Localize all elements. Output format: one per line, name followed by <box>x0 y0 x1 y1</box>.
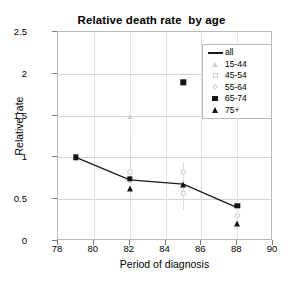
legend-label: 55-64 <box>225 82 247 94</box>
line-key-icon <box>205 47 225 59</box>
legend-item-all: all <box>205 47 269 59</box>
data-point-65-74 <box>127 176 132 181</box>
data-point-65-74 <box>73 155 78 160</box>
y-axis-label: Relative rate <box>13 66 25 186</box>
legend-label: 15-44 <box>225 59 247 71</box>
data-point-75-plus <box>180 182 186 188</box>
y-tick-label: 0.5 <box>0 193 27 204</box>
data-point-65-74 <box>234 203 239 208</box>
data-point-75-plus <box>127 186 133 192</box>
square-filled-icon <box>205 93 225 105</box>
data-point-65-74 <box>181 79 186 84</box>
data-point-15-44 <box>127 114 133 119</box>
data-point-55-64 <box>181 191 185 195</box>
y-tick-label: 2.5 <box>0 26 27 37</box>
legend-item-65-74: 65-74 <box>205 93 269 105</box>
square-open-icon <box>205 70 225 82</box>
legend-item-55-64: 55-64 <box>205 82 269 94</box>
x-axis-label: Period of diagnosis <box>57 258 272 270</box>
legend-item-45-54: 45-54 <box>205 70 269 82</box>
triangle-open-icon <box>205 59 225 71</box>
legend-label: all <box>225 47 234 59</box>
legend-label: 75+ <box>225 105 239 117</box>
legend-item-15-44: 15-44 <box>205 59 269 71</box>
chart-legend: all 15-44 45-54 55-64 65-74 75+ <box>202 44 272 119</box>
chart-figure: Relative death rate by age 0 0.5 1 1.5 2… <box>0 0 303 293</box>
triangle-filled-icon <box>205 105 225 117</box>
diamond-open-icon <box>205 82 225 94</box>
y-tick-label: 0 <box>0 235 27 246</box>
data-point-55-64 <box>235 214 239 218</box>
legend-item-75-plus: 75+ <box>205 105 269 117</box>
legend-label: 45-54 <box>225 70 247 82</box>
data-point-45-54 <box>127 169 132 174</box>
data-point-75-plus <box>234 220 240 226</box>
data-point-55-64 <box>181 169 185 173</box>
legend-label: 65-74 <box>225 93 247 105</box>
